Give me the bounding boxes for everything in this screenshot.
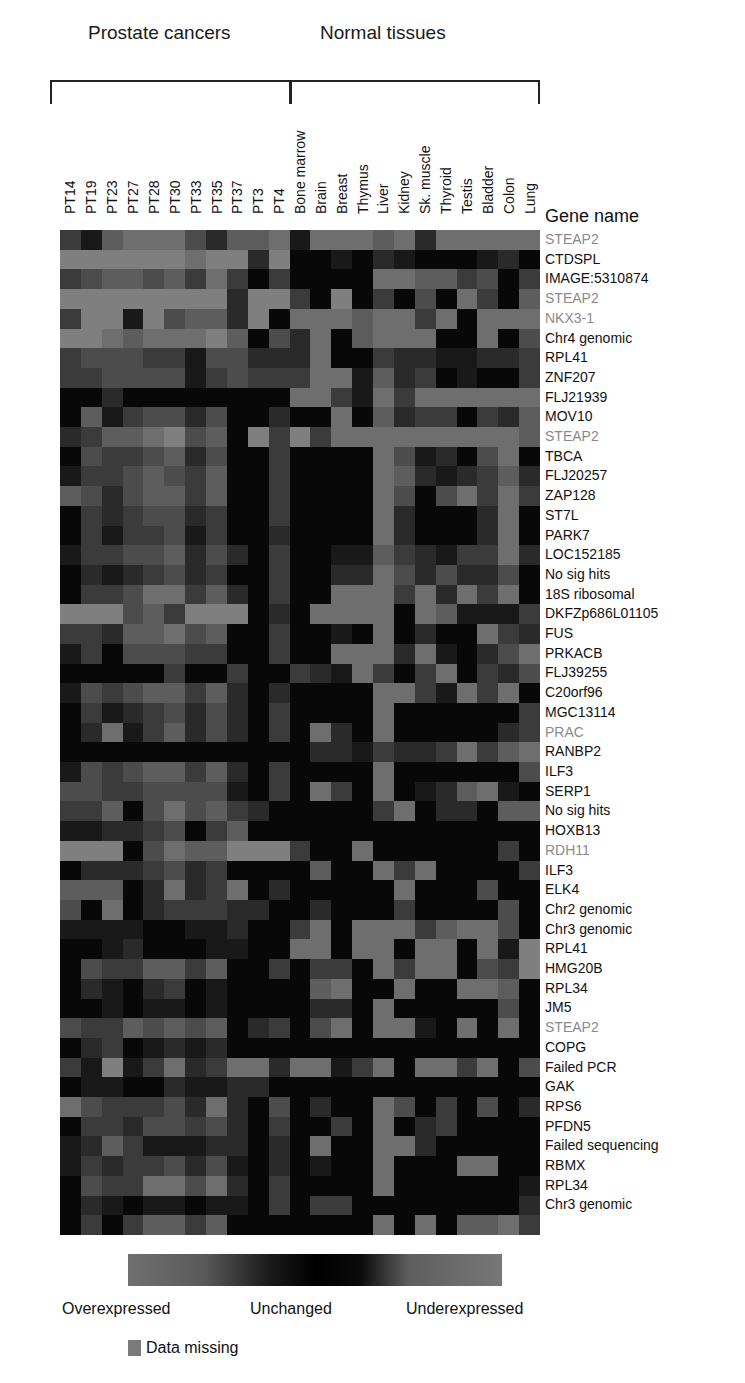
heatmap-cell bbox=[290, 920, 311, 940]
heatmap-cell bbox=[331, 723, 352, 743]
heatmap-cell bbox=[60, 664, 81, 684]
heatmap-cell bbox=[373, 959, 394, 979]
heatmap-cell bbox=[352, 289, 373, 309]
heatmap-cell bbox=[436, 250, 457, 270]
heatmap-cell bbox=[457, 506, 478, 526]
heatmap-cell bbox=[373, 880, 394, 900]
heatmap-cell bbox=[373, 664, 394, 684]
heatmap-cell bbox=[164, 801, 185, 821]
heatmap-cell bbox=[352, 624, 373, 644]
column-label-text: PT30 bbox=[168, 181, 182, 214]
heatmap-cell bbox=[415, 1097, 436, 1117]
heatmap-cell bbox=[331, 644, 352, 664]
heatmap-cell bbox=[352, 565, 373, 585]
heatmap-cell bbox=[143, 407, 164, 427]
gene-label: PFDN5 bbox=[545, 1117, 745, 1137]
heatmap-cell bbox=[102, 762, 123, 782]
heatmap-cell bbox=[436, 683, 457, 703]
heatmap-cell bbox=[60, 269, 81, 289]
column-label: Bladder bbox=[477, 90, 498, 228]
heatmap-cell bbox=[143, 486, 164, 506]
heatmap-cell bbox=[248, 900, 269, 920]
heatmap-cell bbox=[60, 1097, 81, 1117]
heatmap-cell bbox=[123, 880, 144, 900]
heatmap-cell bbox=[331, 388, 352, 408]
heatmap-cell bbox=[206, 269, 227, 289]
column-label-text: Bone marrow bbox=[293, 131, 307, 214]
heatmap-cell bbox=[394, 348, 415, 368]
heatmap-cell bbox=[290, 1038, 311, 1058]
heatmap-cell bbox=[290, 880, 311, 900]
heatmap-cell bbox=[269, 920, 290, 940]
heatmap-cell bbox=[477, 841, 498, 861]
column-label-text: Bladder bbox=[481, 166, 495, 214]
heatmap-cell bbox=[310, 861, 331, 881]
heatmap-cell bbox=[310, 427, 331, 447]
heatmap-cell bbox=[290, 230, 311, 250]
heatmap-cell bbox=[143, 585, 164, 605]
heatmap-cell bbox=[477, 1176, 498, 1196]
heatmap-cell bbox=[415, 861, 436, 881]
heatmap-cell bbox=[143, 664, 164, 684]
column-label: Thymus bbox=[352, 90, 373, 228]
heatmap-cell bbox=[227, 1196, 248, 1216]
heatmap-cell bbox=[310, 466, 331, 486]
gene-label: RPL34 bbox=[545, 979, 745, 999]
heatmap-cell bbox=[123, 1176, 144, 1196]
heatmap-cell bbox=[164, 1097, 185, 1117]
heatmap-cell bbox=[206, 585, 227, 605]
heatmap-cell bbox=[143, 506, 164, 526]
heatmap-cell bbox=[185, 683, 206, 703]
heatmap-cell bbox=[269, 230, 290, 250]
heatmap-cell bbox=[290, 585, 311, 605]
heatmap-cell bbox=[227, 979, 248, 999]
heatmap-cell bbox=[373, 624, 394, 644]
heatmap-cell bbox=[206, 368, 227, 388]
heatmap-cell bbox=[519, 959, 540, 979]
heatmap-cell bbox=[498, 959, 519, 979]
column-label-text: Liver bbox=[376, 184, 390, 214]
heatmap-cell bbox=[331, 841, 352, 861]
heatmap-cell bbox=[123, 309, 144, 329]
heatmap-cell bbox=[227, 821, 248, 841]
heatmap-cell bbox=[143, 861, 164, 881]
heatmap-cell bbox=[457, 1156, 478, 1176]
heatmap-cell bbox=[290, 1097, 311, 1117]
heatmap-cell bbox=[81, 880, 102, 900]
heatmap-cell bbox=[373, 309, 394, 329]
heatmap-cell bbox=[331, 1215, 352, 1235]
heatmap-cell bbox=[60, 585, 81, 605]
heatmap-cell bbox=[185, 486, 206, 506]
heatmap-cell bbox=[81, 841, 102, 861]
heatmap-cell bbox=[164, 230, 185, 250]
heatmap-cell bbox=[498, 703, 519, 723]
heatmap-cell bbox=[310, 585, 331, 605]
heatmap-cell bbox=[248, 269, 269, 289]
heatmap-cell bbox=[269, 466, 290, 486]
heatmap-cell bbox=[373, 447, 394, 467]
heatmap-cell bbox=[373, 230, 394, 250]
heatmap-cell bbox=[498, 742, 519, 762]
heatmap-cell bbox=[60, 821, 81, 841]
heatmap-cell bbox=[81, 920, 102, 940]
heatmap-cell bbox=[81, 1097, 102, 1117]
heatmap-cell bbox=[394, 861, 415, 881]
heatmap-cell bbox=[185, 959, 206, 979]
heatmap-cell bbox=[185, 703, 206, 723]
heatmap-cell bbox=[164, 348, 185, 368]
heatmap-cell bbox=[436, 585, 457, 605]
heatmap-cell bbox=[519, 1156, 540, 1176]
heatmap-cell bbox=[164, 250, 185, 270]
heatmap-cell bbox=[206, 1156, 227, 1176]
heatmap-cell bbox=[81, 526, 102, 546]
heatmap-cell bbox=[498, 920, 519, 940]
heatmap-cell bbox=[331, 703, 352, 723]
heatmap-cell bbox=[457, 762, 478, 782]
heatmap-cell bbox=[227, 723, 248, 743]
column-label-text: PT3 bbox=[251, 188, 265, 214]
heatmap-cell bbox=[519, 230, 540, 250]
heatmap-cell bbox=[227, 644, 248, 664]
heatmap-cell bbox=[164, 447, 185, 467]
heatmap-cell bbox=[415, 1136, 436, 1156]
heatmap-cell bbox=[269, 979, 290, 999]
